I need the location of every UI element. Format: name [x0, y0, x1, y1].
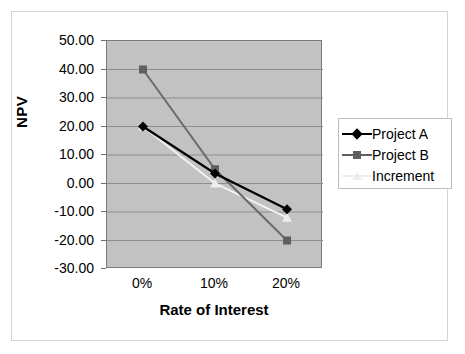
- legend-item-label: Increment: [372, 169, 434, 183]
- y-axis-tick-label: -30.00: [54, 261, 94, 275]
- chart-legend: Project AProject BIncrement: [338, 118, 452, 189]
- legend-item-label: Project A: [372, 127, 428, 141]
- y-axis-title: NPV: [13, 96, 30, 128]
- legend-key: [342, 168, 372, 184]
- y-axis-tick-label: 10.00: [59, 147, 94, 161]
- triangle-icon: [352, 172, 362, 180]
- diamond-marker-icon: [282, 204, 292, 214]
- y-axis-tick-label: 20.00: [59, 119, 94, 133]
- x-axis-tick-label: 20%: [272, 276, 300, 290]
- x-axis-tick-label: 10%: [200, 276, 228, 290]
- x-axis-title: Rate of Interest: [106, 301, 322, 318]
- y-axis-tick-labels: 50.0040.0030.0020.0010.000.00-10.00-20.0…: [36, 40, 100, 268]
- legend-item: Increment: [339, 165, 451, 186]
- square-marker-icon: [139, 66, 147, 74]
- legend-key: [342, 147, 372, 163]
- square-icon: [353, 151, 361, 159]
- square-marker-icon: [283, 237, 291, 245]
- y-axis-tick-label: 0.00: [67, 176, 94, 190]
- legend-item-label: Project B: [372, 148, 429, 162]
- x-axis-tick-label: 0%: [132, 276, 152, 290]
- legend-key: [342, 126, 372, 142]
- legend-item: Project B: [339, 144, 451, 165]
- y-axis-tick-label: -10.00: [54, 204, 94, 218]
- y-axis-tick-mark: [101, 268, 106, 269]
- y-axis-tick-label: 50.00: [59, 33, 94, 47]
- legend-item: Project A: [339, 123, 451, 144]
- y-axis-tick-label: 40.00: [59, 62, 94, 76]
- plot-svg: [107, 41, 323, 269]
- y-axis-tick-label: -20.00: [54, 233, 94, 247]
- plot-area: [106, 40, 322, 268]
- y-axis-tick-label: 30.00: [59, 90, 94, 104]
- diamond-icon: [351, 128, 362, 139]
- x-axis-tick-labels: 0%10%20%: [106, 276, 322, 296]
- chart-container: NPV 50.0040.0030.0020.0010.000.00-10.00-…: [0, 0, 465, 354]
